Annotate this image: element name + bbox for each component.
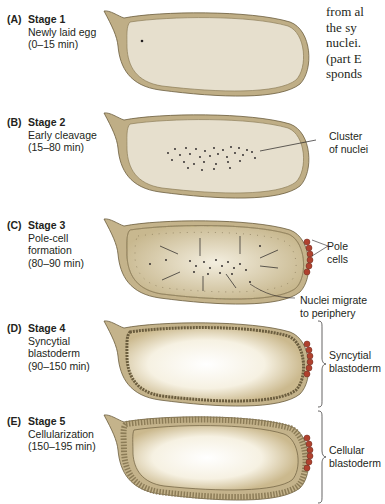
annotation-line: of nuclei — [329, 143, 368, 156]
egg-stage-2-illustration — [100, 110, 320, 202]
panel-letter: (C) — [7, 219, 22, 231]
stage-label: Stage 2 Early cleavage (15–80 min) — [28, 116, 97, 154]
panel-stage-5: (E) Stage 5 Cellularization (150–195 min… — [0, 412, 385, 504]
annotation-line: blastoderm — [329, 362, 381, 375]
egg-stage-4-illustration — [100, 318, 320, 410]
annotation-cellular-blastoderm: Cellular blastoderm — [329, 444, 381, 469]
stage-desc: Newly laid egg — [28, 26, 96, 39]
annotation-pole-cells: Pole cells — [327, 240, 348, 265]
annotation-line: cells — [327, 253, 348, 266]
annotation-syncytial-blastoderm: Syncytial blastoderm — [329, 349, 381, 374]
stage-title: Stage 4 — [28, 322, 90, 335]
stage-label: Stage 3 Pole-cell formation (80–90 min) — [28, 219, 84, 269]
panel-letter: (B) — [7, 116, 22, 128]
stage-desc: formation — [28, 244, 84, 257]
stage-title: Stage 5 — [28, 415, 96, 428]
stage-desc: Pole-cell — [28, 232, 84, 245]
stage-title: Stage 1 — [28, 13, 96, 26]
egg-stage-5-illustration — [100, 412, 320, 504]
panel-letter: (E) — [7, 415, 21, 427]
stage-time: (150–195 min) — [28, 440, 96, 453]
annotation-cluster-of-nuclei: Cluster of nuclei — [329, 130, 368, 155]
annotation-nuclei-migrate: Nuclei migrate to periphery — [300, 294, 367, 319]
bracket-syncytial-blastoderm — [316, 320, 328, 408]
panel-stage-1: (A) Stage 1 Newly laid egg (0–15 min) — [0, 8, 385, 100]
stage-title: Stage 2 — [28, 116, 97, 129]
egg-stage-3-illustration — [100, 216, 320, 308]
stage-label: Stage 1 Newly laid egg (0–15 min) — [28, 13, 96, 51]
stage-label: Stage 5 Cellularization (150–195 min) — [28, 415, 96, 453]
stage-desc: Early cleavage — [28, 129, 97, 142]
stage-time: (80–90 min) — [28, 257, 84, 270]
annotation-line: Cluster — [329, 130, 368, 143]
panel-stage-3: (C) Stage 3 Pole-cell formation (80–90 m… — [0, 216, 385, 308]
stage-desc: Cellularization — [28, 428, 96, 441]
panel-stage-4: (D) Stage 4 Syncytial blastoderm (90–150… — [0, 318, 385, 410]
stage-label: Stage 4 Syncytial blastoderm (90–150 min… — [28, 322, 90, 372]
stage-time: (15–80 min) — [28, 141, 97, 154]
panel-stage-2: (B) Stage 2 Early cleavage (15–80 min) C… — [0, 110, 385, 202]
annotation-line: blastoderm — [329, 457, 381, 470]
annotation-line: Pole — [327, 240, 348, 253]
stage-desc: Syncytial — [28, 335, 90, 348]
stage-desc: blastoderm — [28, 347, 90, 360]
stage-title: Stage 3 — [28, 219, 84, 232]
stage-time: (0–15 min) — [28, 38, 96, 51]
panel-letter: (D) — [7, 322, 22, 334]
egg-stage-1-illustration — [100, 8, 320, 100]
panel-letter: (A) — [7, 13, 22, 25]
annotation-line: Nuclei migrate — [300, 294, 367, 307]
annotation-line: Cellular — [329, 444, 381, 457]
annotation-line: Syncytial — [329, 349, 381, 362]
bracket-cellular-blastoderm — [316, 410, 328, 504]
nucleus-dot — [141, 40, 144, 43]
stage-time: (90–150 min) — [28, 360, 90, 373]
